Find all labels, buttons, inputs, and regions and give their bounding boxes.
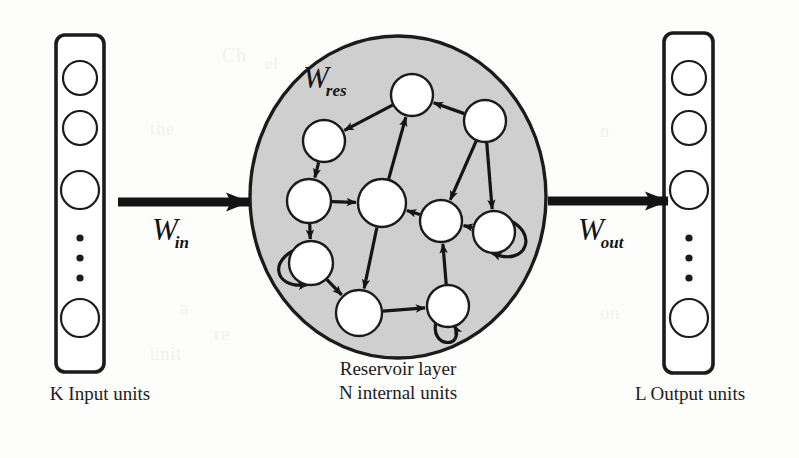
w-res-subscript: res bbox=[326, 81, 347, 100]
reservoir-node-n5 bbox=[358, 179, 406, 227]
w-in-label: Win bbox=[152, 214, 192, 245]
w-res-label: Wres bbox=[303, 62, 350, 93]
reservoir-edge-n7-to-n6 bbox=[464, 226, 473, 228]
reservoir-edge-n4-to-n5 bbox=[332, 202, 356, 203]
w-out-subscript: out bbox=[601, 233, 624, 252]
w-out-label: Wout bbox=[578, 214, 627, 245]
input-ellipsis-dot-3 bbox=[76, 274, 83, 281]
input-unit-1 bbox=[63, 61, 97, 95]
reservoir-caption-line2: N internal units bbox=[268, 382, 528, 404]
input-unit-3 bbox=[61, 171, 99, 209]
esn-architecture-figure: Chelthed ofnatheonreunit Win Wres bbox=[0, 0, 799, 458]
reservoir-layer bbox=[250, 36, 546, 358]
w-in-base: W bbox=[152, 212, 178, 247]
reservoir-node-n3 bbox=[303, 120, 345, 162]
output-layer bbox=[664, 33, 713, 373]
reservoir-caption-line1: Reservoir layer bbox=[268, 358, 528, 380]
output-unit-2 bbox=[672, 111, 706, 145]
reservoir-node-n2 bbox=[464, 100, 506, 142]
w-in-subscript: in bbox=[175, 233, 189, 252]
input-ellipsis-dot-2 bbox=[76, 254, 83, 261]
output-unit-1 bbox=[672, 61, 706, 95]
input-unit-4 bbox=[61, 299, 99, 337]
reservoir-node-n9 bbox=[336, 290, 382, 336]
output-ellipsis-dot-2 bbox=[685, 254, 692, 261]
reservoir-node-n8 bbox=[289, 241, 333, 285]
reservoir-node-n4 bbox=[287, 179, 331, 223]
reservoir-node-n10 bbox=[427, 285, 469, 327]
input-ellipsis-dot-1 bbox=[76, 234, 83, 241]
w-out-base: W bbox=[578, 212, 604, 247]
output-ellipsis-dot-3 bbox=[685, 274, 692, 281]
output-ellipsis-dot-1 bbox=[685, 234, 692, 241]
input-layer-caption: K Input units bbox=[0, 383, 200, 405]
reservoir-node-n6 bbox=[420, 200, 462, 242]
input-layer bbox=[56, 35, 104, 372]
input-unit-2 bbox=[63, 111, 97, 145]
output-unit-4 bbox=[670, 299, 708, 337]
output-unit-3 bbox=[670, 171, 708, 209]
output-layer-caption: L Output units bbox=[590, 383, 790, 405]
w-res-base: W bbox=[303, 60, 329, 95]
reservoir-node-n1 bbox=[391, 74, 433, 116]
reservoir-node-n7 bbox=[473, 211, 515, 253]
